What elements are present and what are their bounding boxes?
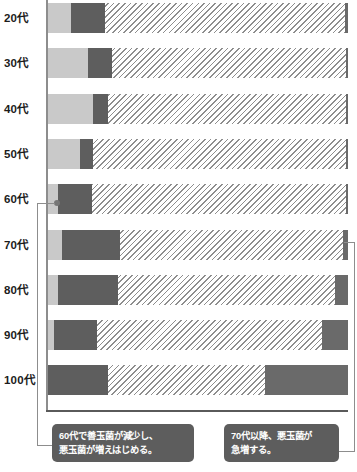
bar-segment-bad-bacteria <box>58 275 118 305</box>
bar-segment-bad-bacteria <box>88 48 112 78</box>
bar-segment-neutral-bacteria <box>118 275 335 305</box>
bar-segment-bad-bacteria-increase <box>265 365 348 395</box>
chart-row: 80代 <box>0 275 357 305</box>
chart-row: 40代 <box>0 94 357 124</box>
bar-segment-neutral-bacteria <box>108 94 346 124</box>
annotation-70s-line-1: 70代以降、悪玉菌が <box>231 429 332 443</box>
bar-segment-bad-bacteria-increase <box>343 230 348 260</box>
bar-segment-bad-bacteria-increase <box>346 139 348 169</box>
stacked-bar <box>48 275 348 305</box>
bar-segment-bad-bacteria <box>93 94 108 124</box>
bar-segment-good-bacteria <box>48 230 62 260</box>
leader-60s-horizontal-top <box>37 203 55 204</box>
bar-segment-neutral-bacteria <box>108 365 265 395</box>
category-label-3: 40代 <box>0 94 44 124</box>
chart-row: 100代 <box>0 365 357 395</box>
stacked-bar <box>48 320 348 350</box>
chart-row: 50代 <box>0 139 357 169</box>
chart-row: 60代 <box>0 184 357 214</box>
stacked-bar <box>48 230 348 260</box>
stacked-bar <box>48 139 348 169</box>
bar-segment-bad-bacteria-increase <box>322 320 348 350</box>
bar-segment-good-bacteria <box>48 48 88 78</box>
bar-segment-bad-bacteria <box>58 184 92 214</box>
leader-70s-horizontal-bottom <box>338 451 354 452</box>
stacked-bar <box>48 94 348 124</box>
bar-segment-neutral-bacteria <box>92 184 346 214</box>
annotation-60s-line-1: 60代で善玉菌が減少し、 <box>59 429 187 443</box>
stacked-bar <box>48 184 348 214</box>
bacteria-balance-chart: 20代30代40代50代60代70代80代90代100代 60代で善玉菌が減少し… <box>0 0 357 472</box>
category-label-4: 50代 <box>0 139 44 169</box>
bar-segment-bad-bacteria <box>71 3 105 33</box>
bar-segment-good-bacteria <box>48 94 93 124</box>
bar-segment-bad-bacteria <box>48 365 108 395</box>
bar-segment-good-bacteria <box>48 275 58 305</box>
leader-60s-vertical <box>37 203 38 446</box>
category-label-1: 20代 <box>0 3 44 33</box>
annotation-70s-plus: 70代以降、悪玉菌が 急増する。 <box>224 424 339 462</box>
chart-row: 30代 <box>0 48 357 78</box>
bar-segment-bad-bacteria-increase <box>346 94 348 124</box>
bar-segment-bad-bacteria <box>80 139 93 169</box>
bar-segment-bad-bacteria-increase <box>346 48 348 78</box>
bar-segment-good-bacteria <box>48 3 71 33</box>
stacked-bar <box>48 3 348 33</box>
leader-70s-vertical <box>354 242 355 452</box>
bar-segment-neutral-bacteria <box>112 48 346 78</box>
annotation-60s: 60代で善玉菌が減少し、 悪玉菌が増えはじめる。 <box>52 424 194 462</box>
stacked-bar <box>48 365 348 395</box>
bar-segment-neutral-bacteria <box>93 139 346 169</box>
bar-segment-good-bacteria <box>48 139 80 169</box>
annotation-60s-line-2: 悪玉菌が増えはじめる。 <box>59 443 187 457</box>
chart-row: 70代 <box>0 230 357 260</box>
chart-row: 90代 <box>0 320 357 350</box>
bar-segment-bad-bacteria-increase <box>335 275 348 305</box>
x-axis-line <box>46 410 348 412</box>
category-label-2: 30代 <box>0 48 44 78</box>
annotation-70s-line-2: 急増する。 <box>231 443 332 457</box>
bar-segment-neutral-bacteria <box>105 3 345 33</box>
bar-segment-bad-bacteria-increase <box>346 184 348 214</box>
bar-segment-neutral-bacteria <box>120 230 343 260</box>
bar-segment-bad-bacteria <box>62 230 120 260</box>
chart-row: 20代 <box>0 3 357 33</box>
bar-segment-bad-bacteria <box>54 320 97 350</box>
stacked-bar <box>48 48 348 78</box>
bar-segment-neutral-bacteria <box>97 320 322 350</box>
bar-segment-bad-bacteria-increase <box>345 3 348 33</box>
